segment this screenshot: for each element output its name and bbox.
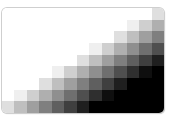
gradient-cell (52, 8, 64, 20)
gradient-cell (127, 8, 139, 20)
gradient-cell (64, 66, 76, 78)
gradient-cell (89, 8, 101, 20)
gradient-cell (27, 101, 39, 113)
gradient-cell (89, 78, 101, 90)
gradient-cell (52, 101, 64, 113)
gradient-cell (152, 55, 164, 67)
gradient-cell (139, 66, 151, 78)
gradient-cell (89, 31, 101, 43)
gradient-cell (77, 43, 89, 55)
gradient-cell (64, 8, 76, 20)
gradient-cell (89, 101, 101, 113)
gradient-cell (127, 90, 139, 102)
gradient-cell (14, 101, 26, 113)
gradient-cell (39, 43, 51, 55)
gradient-cell (139, 55, 151, 67)
gradient-cell (52, 20, 64, 32)
gradient-cell (39, 20, 51, 32)
gradient-cell (152, 66, 164, 78)
gradient-cell (2, 66, 14, 78)
gradient-cell (152, 8, 164, 20)
gradient-cell (102, 101, 114, 113)
gradient-cell (39, 8, 51, 20)
gradient-cell (52, 78, 64, 90)
gradient-cell (2, 20, 14, 32)
gradient-cell (114, 20, 126, 32)
gradient-cell (52, 43, 64, 55)
gradient-cell (64, 55, 76, 67)
gradient-cell (64, 101, 76, 113)
gradient-cell (64, 78, 76, 90)
gradient-cell (114, 90, 126, 102)
gradient-cell (152, 90, 164, 102)
gradient-cell (52, 31, 64, 43)
gradient-cell (39, 101, 51, 113)
gradient-cell (89, 43, 101, 55)
gradient-cell (27, 31, 39, 43)
gradient-cell (39, 90, 51, 102)
gradient-cell (114, 31, 126, 43)
gradient-cell (102, 78, 114, 90)
gradient-cell (14, 8, 26, 20)
gradient-cell (14, 55, 26, 67)
gradient-cell (114, 43, 126, 55)
gradient-cell (77, 20, 89, 32)
gradient-cell (139, 31, 151, 43)
gradient-cell (27, 55, 39, 67)
gradient-cell (127, 66, 139, 78)
gradient-cell (139, 101, 151, 113)
gradient-cell (39, 66, 51, 78)
gradient-cell (89, 66, 101, 78)
gradient-cell (77, 31, 89, 43)
gradient-cell (14, 66, 26, 78)
gradient-cell (64, 20, 76, 32)
gradient-cell (2, 101, 14, 113)
gradient-cell (102, 66, 114, 78)
gradient-cell (139, 78, 151, 90)
gradient-cell (127, 101, 139, 113)
gradient-cell (14, 90, 26, 102)
gradient-cell (152, 43, 164, 55)
gradient-cell (152, 78, 164, 90)
gradient-cell (52, 66, 64, 78)
gradient-cell (27, 8, 39, 20)
gradient-cell (77, 66, 89, 78)
gradient-cell (2, 90, 14, 102)
gradient-cell (27, 90, 39, 102)
gradient-cell (2, 78, 14, 90)
gradient-cell (2, 43, 14, 55)
gradient-cell (2, 55, 14, 67)
gradient-cell (27, 78, 39, 90)
gradient-cell (139, 8, 151, 20)
gradient-cell (52, 55, 64, 67)
gradient-cell (2, 31, 14, 43)
gradient-cell (152, 31, 164, 43)
gradient-cell (102, 55, 114, 67)
gradient-cell (77, 78, 89, 90)
gradient-cell (89, 20, 101, 32)
gradient-cell (127, 43, 139, 55)
gradient-cell (64, 43, 76, 55)
gradient-cell (114, 8, 126, 20)
gradient-cell (114, 55, 126, 67)
gradient-cell (139, 43, 151, 55)
gradient-cell (14, 78, 26, 90)
gradient-cell (39, 55, 51, 67)
gradient-cell (64, 90, 76, 102)
gradient-cell (114, 78, 126, 90)
gradient-cell (127, 55, 139, 67)
gradient-cell (27, 66, 39, 78)
gradient-cell (139, 20, 151, 32)
gradient-cell (152, 20, 164, 32)
gradient-cell (64, 31, 76, 43)
gradient-cell (89, 90, 101, 102)
gradient-cell (27, 43, 39, 55)
gradient-cell (77, 8, 89, 20)
gradient-cell (127, 31, 139, 43)
gradient-cell (102, 8, 114, 20)
gradient-cell (114, 101, 126, 113)
gradient-cell (127, 78, 139, 90)
gradient-cell (27, 20, 39, 32)
gradient-cell (139, 90, 151, 102)
gradient-cell (152, 101, 164, 113)
